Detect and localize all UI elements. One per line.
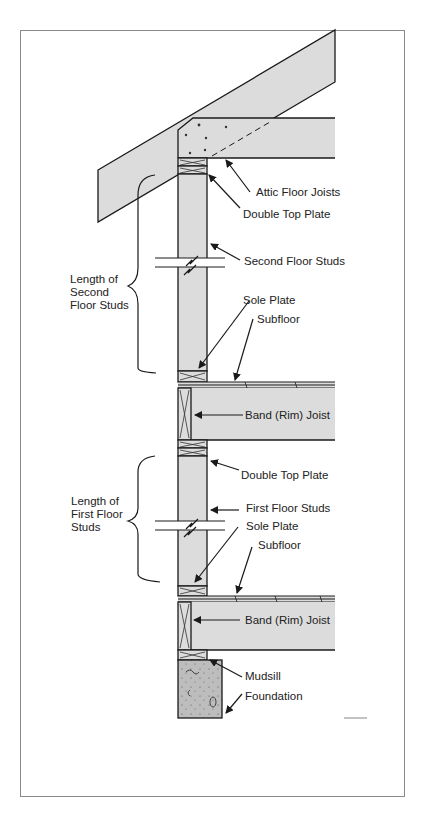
double-top-plate-upper (178, 158, 207, 174)
bracket-label-first: Length of First Floor Studs (71, 495, 123, 533)
mudsill (178, 650, 207, 660)
upper-floor-platform (178, 371, 335, 440)
bracket-label-line: Floor Studs (70, 299, 129, 311)
bracket-label-line: Studs (71, 521, 101, 533)
label-mudsill: Mudsill (245, 670, 281, 682)
attic-floor-joist (178, 118, 335, 158)
label-band-joist-upper: Band (Rim) Joist (245, 409, 331, 421)
bracket-label-line: Length of (70, 273, 119, 285)
bracket-second-floor (128, 175, 156, 373)
bracket-label-line: Second (70, 286, 109, 298)
label-subfloor-upper: Subfloor (257, 313, 300, 325)
label-sole-plate-lower: Sole Plate (246, 520, 298, 532)
label-band-joist-lower: Band (Rim) Joist (245, 614, 331, 626)
label-double-top-plate-upper: Double Top Plate (243, 208, 330, 220)
bracket-label-line: First Floor (71, 508, 123, 520)
bracket-label-line: Length of (71, 495, 120, 507)
label-second-floor-studs: Second Floor Studs (244, 255, 345, 267)
label-first-floor-studs: First Floor Studs (246, 502, 331, 514)
label-sole-plate-upper: Sole Plate (243, 294, 295, 306)
first-floor-studs (155, 456, 225, 586)
second-floor-studs (155, 174, 225, 371)
foundation (178, 660, 222, 718)
label-foundation: Foundation (245, 690, 303, 702)
label-subfloor-lower: Subfloor (258, 539, 301, 551)
label-attic-floor-joists: Attic Floor Joists (256, 186, 341, 198)
bracket-first-floor (128, 456, 160, 582)
label-double-top-plate-lower: Double Top Plate (241, 469, 328, 481)
framing-diagram: Attic Floor Joists Double Top Plate Seco… (0, 0, 422, 814)
double-top-plate-lower (178, 440, 207, 456)
bracket-label-second: Length of Second Floor Studs (70, 273, 129, 311)
